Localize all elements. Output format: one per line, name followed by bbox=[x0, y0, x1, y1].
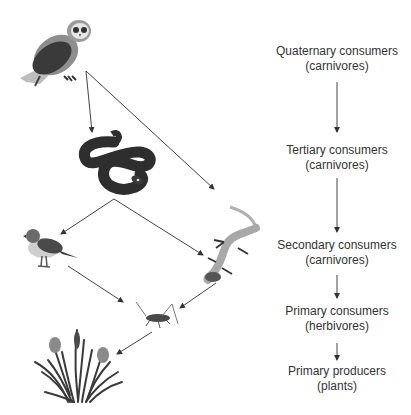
level-subtitle: (carnivores) bbox=[262, 59, 411, 74]
arrow-owl-to-snake bbox=[86, 71, 92, 132]
level-title: Quaternary consumers bbox=[262, 44, 411, 59]
food-web-diagram: Quaternary consumers (carnivores) Tertia… bbox=[0, 0, 411, 415]
level-subtitle: (herbivores) bbox=[262, 319, 411, 334]
level-title: Primary producers bbox=[262, 364, 411, 379]
level-tertiary-consumers: Tertiary consumers (carnivores) bbox=[262, 143, 411, 173]
lizard-icon bbox=[205, 207, 256, 282]
plants-icon bbox=[35, 330, 122, 402]
level-title: Primary consumers bbox=[262, 304, 411, 319]
level-title: Tertiary consumers bbox=[262, 143, 411, 158]
level-primary-producers: Primary producers (plants) bbox=[262, 364, 411, 394]
bird-icon bbox=[23, 229, 78, 267]
level-subtitle: (carnivores) bbox=[262, 158, 411, 173]
owl-icon bbox=[20, 20, 91, 86]
arrow-bird-to-grasshopper bbox=[68, 266, 123, 302]
grasshopper-icon bbox=[136, 302, 178, 328]
level-title: Secondary consumers bbox=[262, 238, 411, 253]
arrow-snake-to-lizard bbox=[114, 199, 203, 255]
level-primary-consumers: Primary consumers (herbivores) bbox=[262, 304, 411, 334]
level-secondary-consumers: Secondary consumers (carnivores) bbox=[262, 238, 411, 268]
arrow-snake-to-bird bbox=[61, 199, 114, 234]
food-web-arrows bbox=[61, 71, 216, 354]
level-quaternary-consumers: Quaternary consumers (carnivores) bbox=[262, 44, 411, 74]
snake-icon bbox=[84, 133, 150, 189]
level-subtitle: (plants) bbox=[262, 379, 411, 394]
arrow-grasshopper-to-plants bbox=[117, 332, 152, 354]
arrow-lizard-to-grasshopper bbox=[180, 283, 216, 308]
level-subtitle: (carnivores) bbox=[262, 253, 411, 268]
